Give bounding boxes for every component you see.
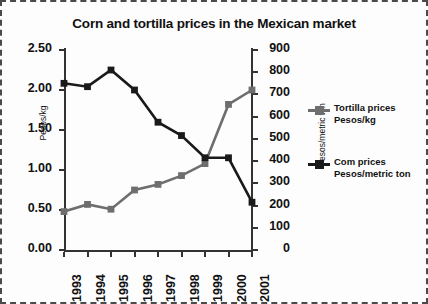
y-tick-label-left: 0.00: [28, 241, 52, 255]
data-point-marker: [155, 119, 162, 126]
x-tick-label: 2001: [258, 274, 272, 302]
y-tick-label-right: 300: [260, 174, 290, 188]
y-tick-label-right: 800: [260, 63, 290, 77]
x-tick: [204, 252, 206, 257]
x-tick: [87, 252, 89, 257]
y-tick-right: [253, 160, 258, 162]
y-tick-label-right: 400: [260, 152, 290, 166]
y-tick-label-right: 100: [260, 219, 290, 233]
y-tick-label-right: 600: [260, 108, 290, 122]
data-point-marker: [225, 101, 232, 108]
x-tick-label: 1994: [94, 274, 108, 302]
data-point-marker: [108, 206, 115, 213]
data-point-marker: [84, 83, 91, 90]
legend-swatch-corn: [308, 163, 330, 166]
series-line-tortilla: [64, 90, 252, 212]
data-point-marker: [202, 160, 209, 167]
y-tick-right: [253, 49, 258, 51]
data-point-marker: [202, 154, 209, 161]
y-tick-right: [253, 71, 258, 73]
legend-label-tortilla-unit: Pesos/kg: [334, 114, 424, 126]
x-tick-label: 1996: [141, 274, 155, 302]
data-point-marker: [108, 67, 115, 74]
y-tick-right: [253, 116, 258, 118]
y-tick-label-right: 500: [260, 130, 290, 144]
data-point-marker: [155, 181, 162, 188]
y-tick-right: [253, 182, 258, 184]
legend-label-corn-unit: Pesos/metric ton: [334, 168, 424, 180]
x-tick-label: 1999: [211, 274, 225, 302]
data-point-marker: [225, 154, 232, 161]
data-point-marker: [249, 87, 256, 94]
y-tick-label-right: 700: [260, 85, 290, 99]
y-tick-label-right: 200: [260, 197, 290, 211]
legend-swatch-tortilla: [308, 109, 330, 112]
x-tick: [157, 252, 159, 257]
legend-item-corn: Com prices Pesos/metric ton: [308, 156, 424, 180]
y-tick-label-left: 1.00: [28, 161, 52, 175]
series-canvas: [64, 50, 252, 250]
data-point-marker: [178, 172, 185, 179]
y-tick-label-right: 0: [260, 241, 290, 255]
x-tick-label: 2000: [235, 274, 249, 302]
data-point-marker: [61, 208, 68, 215]
legend-item-tortilla: Tortilla prices Pesos/kg: [308, 102, 424, 126]
y-tick-label-left: 2.00: [28, 81, 52, 95]
legend-label-tortilla-name: Tortilla prices: [334, 102, 424, 114]
x-tick: [181, 252, 183, 257]
y-tick-right: [253, 93, 258, 95]
x-tick: [251, 252, 253, 257]
data-point-marker: [131, 87, 138, 94]
plot-area: [64, 50, 252, 250]
data-point-marker: [178, 132, 185, 139]
y-axis-left-title: Pesos/kg: [38, 106, 48, 141]
x-tick: [134, 252, 136, 257]
data-point-marker: [131, 187, 138, 194]
x-tick: [63, 252, 65, 257]
x-tick: [110, 252, 112, 257]
x-tick-label: 1997: [164, 274, 178, 302]
y-tick-right: [253, 227, 258, 229]
x-tick-label: 1995: [117, 274, 131, 302]
x-tick-label: 1993: [70, 274, 84, 302]
data-point-marker: [84, 201, 91, 208]
data-point-marker: [61, 80, 68, 87]
y-tick-label-right: 900: [260, 41, 290, 55]
chart-legend: Tortilla prices Pesos/kg Com prices Peso…: [308, 102, 424, 210]
x-tick-label: 1998: [188, 274, 202, 302]
legend-label-corn-name: Com prices: [334, 156, 424, 168]
chart-title: Corn and tortilla prices in the Mexican …: [2, 16, 426, 31]
y-tick-label-left: 0.50: [28, 201, 52, 215]
y-tick-label-left: 2.50: [28, 41, 52, 55]
data-point-marker: [249, 199, 256, 206]
x-tick: [228, 252, 230, 257]
chart-figure: Corn and tortilla prices in the Mexican …: [0, 0, 428, 304]
y-tick-right: [253, 138, 258, 140]
y-tick-right: [253, 249, 258, 251]
